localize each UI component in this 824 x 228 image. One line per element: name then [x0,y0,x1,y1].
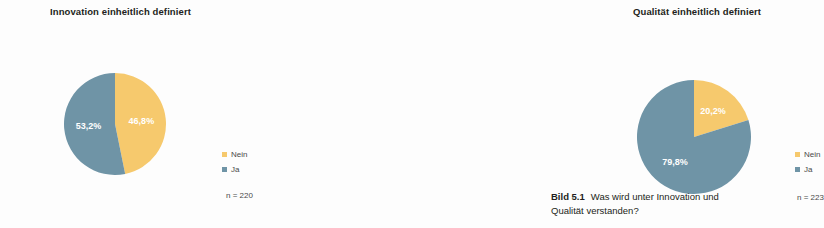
pie-chart-innovation: 46,8% 53,2% [63,72,167,176]
pie-chart-qualitaet: 20,2% 79,8% [636,79,752,195]
legend-label-ja: Ja [804,166,812,174]
legend-swatch-nein [222,152,227,157]
chart-title-innovation: Innovation einheitlich definiert [50,6,191,17]
pie-slice-label-nein: 46,8% [129,116,155,126]
pie-svg-innovation: 46,8% 53,2% [63,72,167,176]
pie-slice-label-nein: 20,2% [700,106,726,116]
legend-swatch-ja [795,167,800,172]
sample-size-innovation: n = 220 [226,191,253,200]
legend-label-nein: Nein [804,151,820,159]
legend-label-nein: Nein [231,151,247,159]
legend-item-ja[interactable]: Ja [222,162,247,177]
legend-item-nein[interactable]: Nein [795,147,820,162]
chart-title-qualitaet: Qualität einheitlich definiert [633,6,761,17]
legend-label-ja: Ja [231,166,239,174]
legend-item-ja[interactable]: Ja [795,162,820,177]
legend-innovation: Nein Ja [222,147,247,177]
pie-svg-qualitaet: 20,2% 79,8% [636,79,752,195]
chart-qualitaet: Qualität einheitlich definiert 20,2% 79,… [292,0,592,228]
legend-swatch-nein [795,152,800,157]
chart-innovation: Innovation einheitlich definiert 46,8% 5… [0,0,330,228]
sample-size-qualitaet: n = 223 [797,193,824,202]
figure-caption-number: Bild 5.1 [551,191,585,202]
figure-caption: Bild 5.1Was wird unter Innovation und Qu… [551,190,748,218]
pie-slice-label-ja: 79,8% [662,157,688,167]
legend-item-nein[interactable]: Nein [222,147,247,162]
legend-swatch-ja [222,167,227,172]
legend-qualitaet: Nein Ja [795,147,820,177]
pie-slice-label-ja: 53,2% [76,121,102,131]
